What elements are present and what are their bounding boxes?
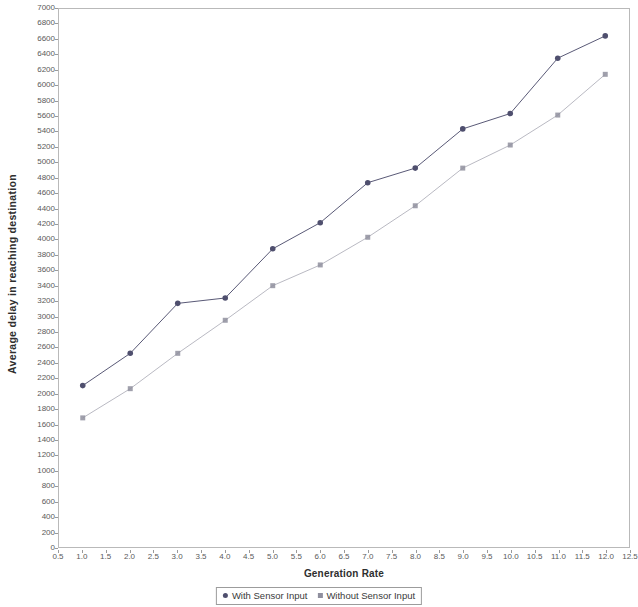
y-tick-label: 2000 [37, 390, 55, 398]
x-tick-mark [582, 550, 583, 553]
data-point-marker [555, 113, 560, 118]
x-tick-label: 8.0 [410, 552, 421, 561]
legend-label: Without Sensor Input [326, 590, 415, 601]
y-tick-label: 600 [42, 498, 55, 506]
x-tick-mark [416, 550, 417, 553]
x-tick-mark [439, 550, 440, 553]
x-tick-label: 10.5 [527, 552, 543, 561]
y-tick-label: 7000 [37, 4, 55, 12]
y-tick-label: 400 [42, 513, 55, 521]
y-tick-label: 1600 [37, 421, 55, 429]
x-tick-label: 4.0 [219, 552, 230, 561]
x-tick-label: 5.0 [267, 552, 278, 561]
x-tick-mark [177, 550, 178, 553]
data-point-marker [365, 235, 370, 240]
data-point-marker [365, 180, 371, 186]
data-point-marker [128, 386, 133, 391]
x-tick-mark [463, 550, 464, 553]
x-tick-label: 2.5 [148, 552, 159, 561]
x-tick-label: 3.5 [195, 552, 206, 561]
data-point-marker [318, 262, 323, 267]
y-tick-label: 2200 [37, 374, 55, 382]
y-tick-label: 1800 [37, 405, 55, 413]
x-tick-mark [130, 550, 131, 553]
y-tick-label: 3600 [37, 266, 55, 274]
y-tick-label: 6800 [37, 19, 55, 27]
data-point-marker [270, 246, 276, 252]
x-tick-label: 11.5 [575, 552, 590, 561]
series-line [83, 74, 606, 418]
y-tick-label: 800 [42, 482, 55, 490]
x-tick-label: 1.0 [76, 552, 87, 561]
data-point-marker [602, 33, 608, 39]
y-tick-label: 3200 [37, 297, 55, 305]
y-tick-label: 2800 [37, 328, 55, 336]
legend-circle-marker-icon [223, 593, 228, 598]
x-tick-mark [225, 550, 226, 553]
data-point-marker [603, 72, 608, 77]
x-tick-mark [368, 550, 369, 553]
x-tick-label: 3.0 [172, 552, 183, 561]
x-tick-label: 11.0 [551, 552, 566, 561]
x-tick-mark [296, 550, 297, 553]
y-tick-label: 4800 [37, 174, 55, 182]
y-tick-mark [55, 548, 58, 549]
data-point-marker [80, 415, 85, 420]
x-tick-mark [320, 550, 321, 553]
x-tick-mark [606, 550, 607, 553]
x-tick-mark [82, 550, 83, 553]
x-tick-label: 9.0 [458, 552, 469, 561]
x-tick-mark [511, 550, 512, 553]
y-tick-label: 4000 [37, 235, 55, 243]
data-point-marker [460, 166, 465, 171]
y-tick-label: 6400 [37, 50, 55, 58]
x-tick-mark [153, 550, 154, 553]
legend-item: With Sensor Input [223, 590, 308, 601]
data-point-marker [175, 301, 181, 307]
x-tick-mark [487, 550, 488, 553]
data-point-marker [317, 220, 323, 226]
x-tick-mark [106, 550, 107, 553]
x-tick-label: 8.5 [434, 552, 445, 561]
data-point-marker [80, 383, 86, 389]
data-point-marker [507, 111, 513, 117]
y-tick-label: 6600 [37, 35, 55, 43]
x-tick-label: 7.0 [362, 552, 373, 561]
x-tick-mark [559, 550, 560, 553]
legend-square-marker-icon [317, 593, 322, 598]
data-point-marker [555, 55, 561, 61]
data-point-marker [413, 203, 418, 208]
series-line [83, 36, 606, 386]
y-tick-label: 200 [42, 529, 55, 537]
x-tick-label: 0.5 [52, 552, 63, 561]
plot-area [58, 8, 630, 548]
y-tick-label: 3400 [37, 282, 55, 290]
y-tick-label: 4600 [37, 189, 55, 197]
x-axis-tick-labels: 0.51.01.52.02.53.03.54.04.55.05.56.06.57… [58, 550, 630, 564]
y-tick-label: 5200 [37, 143, 55, 151]
data-point-marker [175, 351, 180, 356]
legend-item: Without Sensor Input [317, 590, 415, 601]
x-tick-label: 4.5 [243, 552, 254, 561]
x-tick-mark [273, 550, 274, 553]
x-tick-mark [392, 550, 393, 553]
y-tick-label: 3800 [37, 251, 55, 259]
x-tick-mark [201, 550, 202, 553]
y-tick-label: 2600 [37, 343, 55, 351]
y-tick-label: 2400 [37, 359, 55, 367]
x-tick-label: 7.5 [386, 552, 397, 561]
x-tick-label: 6.5 [338, 552, 349, 561]
y-tick-label: 5400 [37, 127, 55, 135]
x-tick-label: 12.5 [622, 552, 638, 561]
data-point-marker [508, 143, 513, 148]
x-tick-label: 5.5 [291, 552, 302, 561]
data-point-marker [127, 351, 133, 357]
y-tick-label: 3000 [37, 313, 55, 321]
data-point-marker [270, 283, 275, 288]
data-point-marker [412, 165, 418, 171]
legend-label: With Sensor Input [232, 590, 308, 601]
x-tick-label: 2.0 [124, 552, 135, 561]
y-tick-label: 6000 [37, 81, 55, 89]
data-point-marker [460, 126, 466, 132]
x-tick-mark [630, 550, 631, 553]
